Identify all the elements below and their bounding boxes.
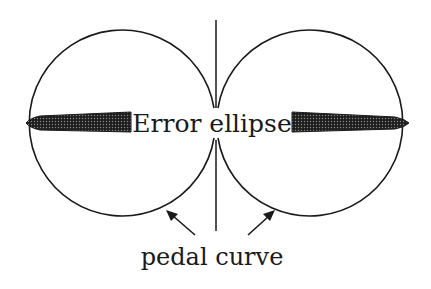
arrow-right-icon [248, 210, 275, 235]
pedal-curve-label: pedal curve [141, 243, 284, 271]
error-ellipse-left [26, 112, 131, 132]
arrow-left-icon [166, 210, 195, 235]
error-ellipse-right [292, 112, 409, 132]
pedal-curve-diagram: Error ellipse pedal curve [0, 0, 431, 289]
error-ellipse-label: Error ellipse [132, 109, 292, 138]
